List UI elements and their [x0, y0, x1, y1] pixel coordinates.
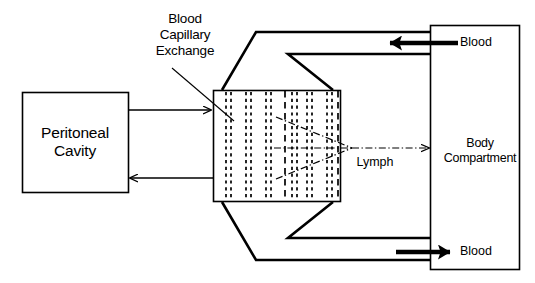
blood-capillary-exchange-label: Blood Capillary Exchange — [135, 11, 235, 59]
body-compartment-label: Body Compartment — [428, 136, 532, 166]
peritoneal-cavity-label: Peritoneal Cavity — [22, 124, 128, 161]
vessel-bottom-inner-wall — [288, 202, 430, 238]
lymph-label: Lymph — [343, 155, 407, 170]
vessel-top-inner-wall — [288, 54, 430, 90]
blood-outflow-label: Blood — [460, 244, 512, 259]
capillary-membrane-box — [214, 91, 341, 202]
diagram-canvas: Peritoneal Cavity Blood Capillary Exchan… — [0, 0, 535, 283]
blood-inflow-label: Blood — [460, 35, 512, 50]
